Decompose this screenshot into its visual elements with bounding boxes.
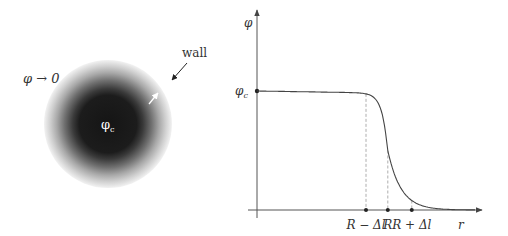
x-tick-label-2: R + Δl: [391, 218, 431, 232]
x-tick-label-1: R: [382, 218, 392, 232]
x-axis-label: r: [458, 218, 465, 232]
core-subscript: c: [110, 125, 115, 134]
phi-c-label: φc: [235, 84, 248, 100]
x-tick-point-2: [410, 208, 414, 212]
dashed-guides: [366, 94, 412, 210]
x-ticks: R − ΔlRR + Δl: [345, 208, 431, 232]
figure: φc wall φ → 0 φ r φc R − ΔlRR + Δl: [0, 0, 508, 236]
x-tick-point-0: [364, 208, 368, 212]
x-tick-label-0: R − Δl: [345, 218, 385, 232]
wall-label: wall: [182, 46, 207, 60]
x-tick-point-1: [386, 208, 390, 212]
outside-label: φ → 0: [23, 71, 60, 86]
profile-plot: φ r φc R − ΔlRR + Δl: [235, 10, 482, 232]
phi-c-subscript: c: [243, 91, 248, 100]
wall-pointer-arrow-icon: [172, 63, 187, 80]
y-axis-label: φ: [244, 16, 253, 30]
bubble-diagram: φc wall φ → 0: [23, 46, 207, 188]
